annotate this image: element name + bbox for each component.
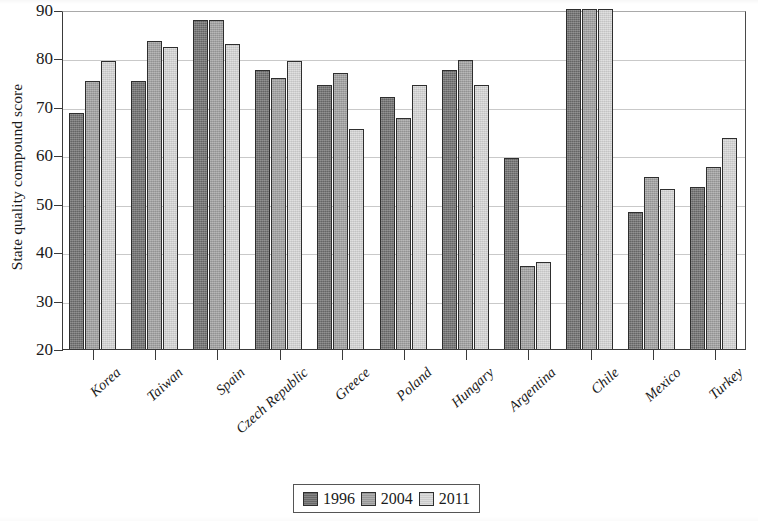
bar	[536, 262, 551, 349]
bar-group	[69, 12, 116, 349]
x-tick-label: Turkey	[706, 364, 747, 403]
bar	[442, 70, 457, 349]
bar	[69, 113, 84, 349]
y-tick-label: 60	[9, 147, 53, 164]
x-tick-mark	[715, 350, 716, 360]
bar	[706, 167, 721, 349]
bar	[598, 9, 613, 349]
y-tick-label: 50	[9, 196, 53, 213]
x-tick-mark	[404, 350, 405, 360]
legend-swatch	[361, 492, 376, 506]
bar	[255, 70, 270, 349]
x-tick-mark	[342, 350, 343, 360]
y-tick-label: 90	[9, 2, 53, 19]
y-tick-label: 70	[9, 99, 53, 116]
bar-group	[566, 12, 613, 349]
y-tick-mark	[54, 350, 63, 351]
x-tick-label: Korea	[86, 364, 124, 401]
bar	[333, 73, 348, 349]
bar	[722, 138, 737, 349]
bar-group	[442, 12, 489, 349]
bar	[131, 81, 146, 349]
bar	[380, 97, 395, 349]
legend-label: 1996	[323, 491, 355, 507]
bar	[504, 158, 519, 349]
legend-label: 2004	[381, 491, 413, 507]
legend-label: 2011	[439, 491, 470, 507]
bar	[474, 85, 489, 349]
bar	[582, 9, 597, 349]
y-tick-label: 30	[9, 293, 53, 310]
bar	[412, 85, 427, 349]
bar-group	[690, 12, 737, 349]
bar	[209, 20, 224, 349]
legend-item: 2011	[419, 491, 470, 507]
bar-group	[317, 12, 364, 349]
bar	[225, 44, 240, 349]
x-tick-label: Chile	[588, 364, 623, 398]
legend-swatch	[303, 492, 318, 506]
x-tick-mark	[466, 350, 467, 360]
y-tick-label: 80	[9, 50, 53, 67]
bar	[317, 85, 332, 349]
chart-legend: 199620042011	[293, 484, 480, 513]
legend-item: 2004	[361, 491, 413, 507]
legend-item: 1996	[303, 491, 355, 507]
bar	[287, 61, 302, 349]
x-tick-label: Hungary	[448, 364, 498, 411]
bar	[644, 177, 659, 349]
x-tick-mark	[591, 350, 592, 360]
bar	[520, 266, 535, 349]
legend-swatch	[419, 492, 434, 506]
bar-group	[380, 12, 427, 349]
bar	[163, 47, 178, 349]
x-tick-mark	[653, 350, 654, 360]
x-tick-label: Poland	[393, 364, 436, 405]
bar	[690, 187, 705, 349]
bar	[271, 78, 286, 349]
x-tick-label: Taiwan	[144, 364, 187, 405]
bar	[85, 81, 100, 349]
bar	[349, 129, 364, 349]
bar-chart-figure: State quality compound score 90807060504…	[0, 0, 758, 521]
bar	[566, 9, 581, 349]
y-tick-label: 20	[9, 341, 53, 358]
bar	[458, 60, 473, 349]
bar	[660, 189, 675, 349]
x-tick-label: Mexico	[641, 364, 684, 405]
x-tick-label: Argentina	[505, 364, 559, 415]
y-tick-label: 40	[9, 244, 53, 261]
bar-group	[504, 12, 551, 349]
x-tick-mark	[280, 350, 281, 360]
bar	[101, 61, 116, 349]
x-tick-mark	[93, 350, 94, 360]
x-tick-label: Spain	[212, 364, 248, 399]
bar	[396, 118, 411, 349]
bar	[628, 212, 643, 349]
x-tick-mark	[155, 350, 156, 360]
bar	[147, 41, 162, 349]
bar-group	[131, 12, 178, 349]
x-tick-mark	[528, 350, 529, 360]
plot-area	[62, 11, 746, 350]
bar-group	[628, 12, 675, 349]
bar	[193, 20, 208, 349]
x-tick-mark	[217, 350, 218, 360]
bar-group	[255, 12, 302, 349]
x-tick-label: Greece	[331, 364, 373, 404]
bar-group	[193, 12, 240, 349]
